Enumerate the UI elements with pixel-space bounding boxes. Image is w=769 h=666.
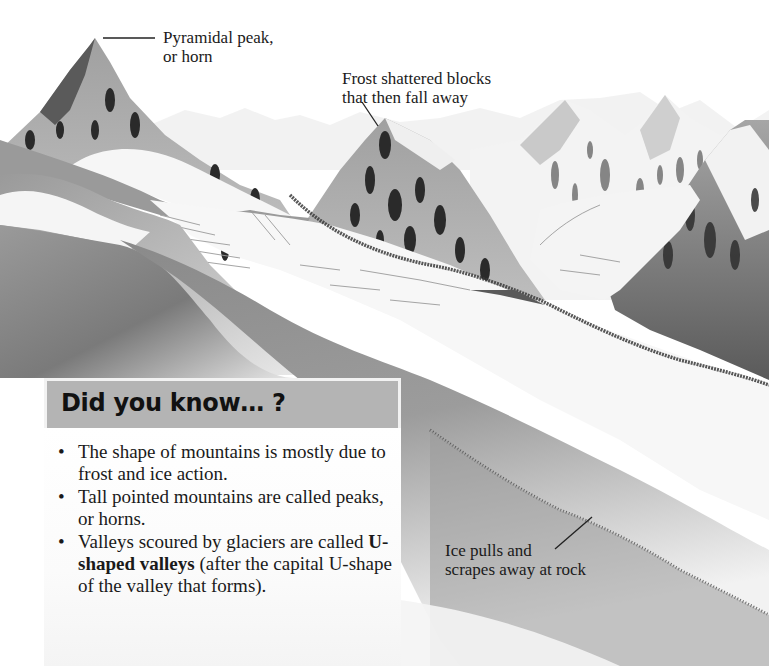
did-you-know-box: Did you know… ? • The shape of mountains…	[44, 378, 401, 666]
did-you-know-body: • The shape of mountains is mostly due t…	[44, 428, 401, 666]
fact-item: • The shape of mountains is mostly due t…	[58, 441, 398, 485]
did-you-know-header: Did you know… ?	[44, 378, 401, 428]
bullet-icon: •	[58, 486, 65, 508]
label-ice-pulls: Ice pulls and scrapes away at rock	[445, 541, 586, 579]
label-frost-shattered: Frost shattered blocks that then fall aw…	[342, 69, 491, 107]
fact-list: • The shape of mountains is mostly due t…	[58, 441, 398, 598]
label-pyramidal-peak: Pyramidal peak, or horn	[163, 28, 273, 66]
fact-item: • Valleys scoured by glaciers are called…	[58, 531, 398, 597]
bullet-icon: •	[58, 531, 65, 553]
fact-item: • Tall pointed mountains are called peak…	[58, 486, 398, 530]
did-you-know-title: Did you know… ?	[61, 389, 286, 417]
bullet-icon: •	[58, 441, 65, 463]
